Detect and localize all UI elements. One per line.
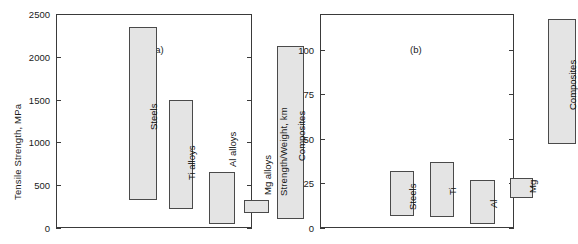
y-tick-label: 0 (16, 223, 50, 234)
y-tick-mark (320, 50, 325, 51)
bar-label: Ti (447, 188, 458, 196)
y-tick-mark (56, 100, 61, 101)
y-tick-mark (320, 139, 325, 140)
y-tick-label: 1500 (16, 94, 50, 105)
bar-label: Al (488, 199, 499, 207)
bar-label: Mg (527, 180, 538, 193)
y-tick-label: 50 (280, 133, 314, 144)
y-tick-mark-right (247, 57, 252, 58)
y-tick-mark (320, 228, 325, 229)
bar-label: Composites (567, 60, 578, 110)
y-tick-mark (320, 94, 325, 95)
y-tick-label: 0 (280, 223, 314, 234)
bar-label: Al alloys (227, 131, 238, 166)
y-tick-mark-right (247, 185, 252, 186)
y-tick-mark (56, 228, 61, 229)
y-tick-label: 500 (16, 180, 50, 191)
bar-label: Ti alloys (186, 146, 197, 181)
y-tick-mark-right (509, 50, 514, 51)
y-tick-mark-right (509, 94, 514, 95)
y-tick-mark-right (247, 14, 252, 15)
y-tick-mark-right (509, 228, 514, 229)
y-tick-mark (56, 14, 61, 15)
chart-panel-a: Tensile Strength, MPa0500100015002000250… (0, 0, 262, 244)
y-tick-mark (320, 183, 325, 184)
y-tick-mark (56, 142, 61, 143)
y-tick-mark (56, 185, 61, 186)
y-tick-mark-right (247, 100, 252, 101)
y-tick-label: 100 (280, 44, 314, 55)
range-bar (209, 172, 235, 224)
y-tick-mark-right (247, 228, 252, 229)
bar-label: Steels (407, 184, 418, 210)
y-tick-label: 25 (280, 178, 314, 189)
y-tick-mark-right (509, 139, 514, 140)
y-tick-mark (56, 57, 61, 58)
panel-tag: (b) (410, 44, 422, 55)
y-tick-label: 75 (280, 89, 314, 100)
y-tick-label: 2000 (16, 51, 50, 62)
chart-panel-b: Strength/Weight, km0255075100(b)SteelsTi… (262, 0, 523, 244)
y-tick-mark-right (247, 142, 252, 143)
bar-label: Steels (148, 104, 159, 130)
y-tick-label: 1000 (16, 137, 50, 148)
y-tick-label: 2500 (16, 9, 50, 20)
